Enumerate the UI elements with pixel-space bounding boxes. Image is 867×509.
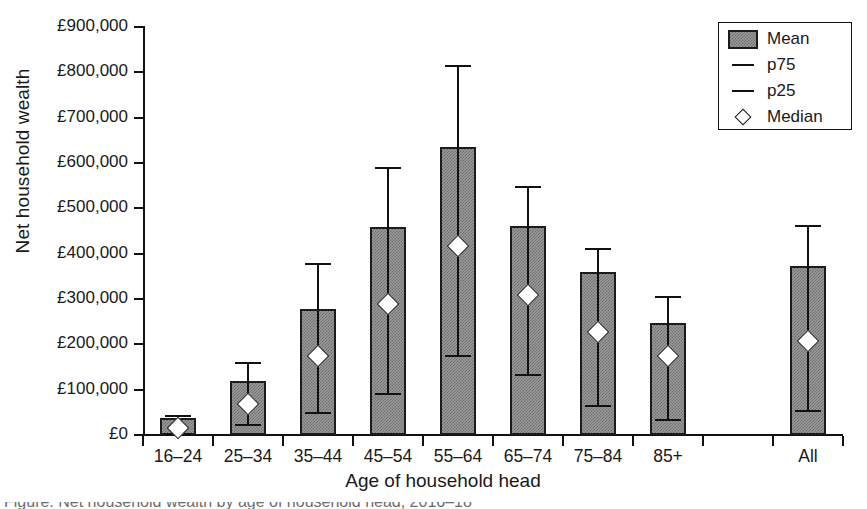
y-tick-label: £200,000 [0, 333, 128, 353]
whisker-line [387, 168, 389, 395]
x-tick-mark [212, 436, 214, 446]
whisker-cap-p25 [375, 393, 401, 395]
y-tick-label: £600,000 [0, 152, 128, 172]
whisker-line [457, 66, 459, 355]
legend-item-median[interactable]: Median [719, 104, 853, 130]
figure-caption-cropped: Figure: Net household wealth by age of h… [0, 502, 867, 509]
legend-item-p25[interactable]: p25 [719, 78, 853, 104]
y-tick-label: £100,000 [0, 379, 128, 399]
x-axis-title: Age of household head [143, 470, 743, 492]
legend-item-p75[interactable]: p75 [719, 52, 853, 78]
whisker-cap-p75 [655, 296, 681, 298]
x-tick-mark [422, 436, 424, 446]
legend-item-mean[interactable]: Mean [719, 26, 853, 52]
y-tick-label: £800,000 [0, 61, 128, 81]
y-tick-mark [134, 71, 144, 73]
y-tick-mark [134, 253, 144, 255]
figure-caption-text: Figure: Net household wealth by age of h… [4, 502, 472, 509]
chart-legend: Meanp75p25Median [718, 22, 852, 130]
legend-key [719, 52, 767, 78]
whisker-cap-p25 [655, 419, 681, 421]
y-tick-label: £0 [0, 424, 128, 444]
y-tick-mark [134, 389, 144, 391]
legend-key [719, 104, 767, 130]
diamond-marker-icon [735, 109, 752, 126]
legend-key [719, 26, 767, 52]
x-tick-mark [492, 436, 494, 446]
whisker-cap-p75 [445, 65, 471, 67]
whisker-cap-p25 [795, 410, 821, 412]
whisker-cap-p75 [235, 362, 261, 364]
legend-key [719, 78, 767, 104]
x-tick-mark [632, 436, 634, 446]
legend-label: p75 [767, 55, 795, 75]
dash-marker-icon [732, 90, 754, 92]
whisker-cap-p25 [445, 355, 471, 357]
whisker-line [317, 264, 319, 413]
y-tick-mark [134, 162, 144, 164]
y-tick-mark [134, 343, 144, 345]
whisker-line [527, 187, 529, 376]
dash-marker-icon [732, 64, 754, 66]
y-tick-label: £500,000 [0, 197, 128, 217]
y-tick-mark [134, 26, 144, 28]
x-tick-mark [142, 436, 144, 446]
y-tick-label: £900,000 [0, 16, 128, 36]
x-tick-label: 85+ [618, 446, 718, 467]
y-axis-line [143, 26, 145, 436]
whisker-cap-p75 [305, 263, 331, 265]
y-tick-mark [134, 207, 144, 209]
legend-label: Median [767, 107, 823, 127]
x-tick-mark [702, 436, 704, 446]
whisker-cap-p75 [795, 225, 821, 227]
x-tick-mark [282, 436, 284, 446]
y-tick-mark [134, 117, 144, 119]
legend-label: p25 [767, 81, 795, 101]
whisker-cap-p25 [515, 374, 541, 376]
y-tick-mark [134, 298, 144, 300]
whisker-cap-p25 [585, 405, 611, 407]
y-tick-label: £400,000 [0, 243, 128, 263]
x-tick-label: All [758, 446, 858, 467]
y-tick-label: £300,000 [0, 288, 128, 308]
whisker-cap-p25 [235, 424, 261, 426]
chart-figure: Net household wealth Age of household he… [0, 0, 867, 509]
y-tick-label: £700,000 [0, 107, 128, 127]
whisker-cap-p25 [305, 412, 331, 414]
whisker-line [807, 226, 809, 411]
x-tick-mark [562, 436, 564, 446]
x-tick-mark [842, 436, 844, 446]
x-tick-mark [352, 436, 354, 446]
mean-swatch-icon [728, 30, 758, 49]
x-tick-mark [772, 436, 774, 446]
whisker-cap-p75 [585, 248, 611, 250]
whisker-cap-p75 [515, 186, 541, 188]
legend-label: Mean [767, 29, 810, 49]
whisker-cap-p75 [375, 167, 401, 169]
